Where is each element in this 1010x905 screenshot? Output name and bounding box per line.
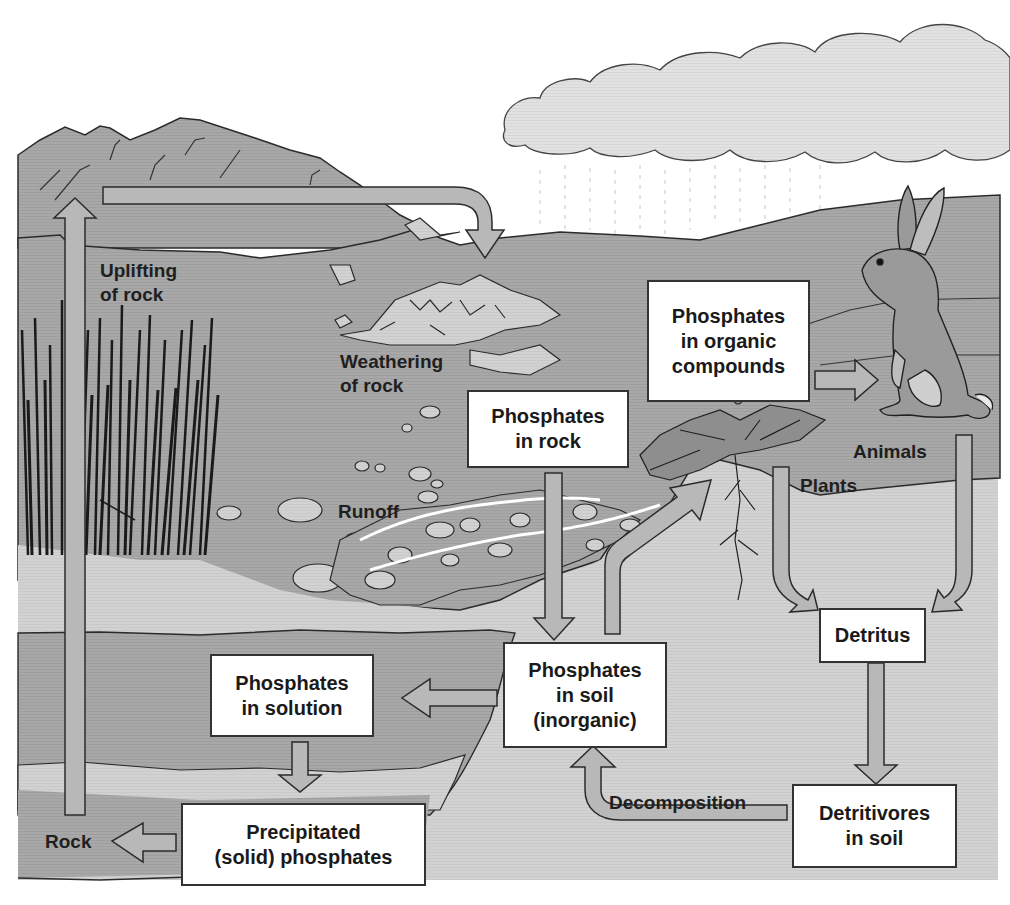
label-weathering: Weathering of rock <box>340 350 443 398</box>
box-phosphates-solution-text: Phosphates in solution <box>235 671 348 721</box>
label-animals: Animals <box>853 440 927 464</box>
label-decomposition: Decomposition <box>609 791 746 815</box>
box-detritus-text: Detritus <box>835 623 911 648</box>
label-plants: Plants <box>800 474 857 498</box>
box-detritus: Detritus <box>819 608 926 663</box>
label-rock: Rock <box>45 830 91 854</box>
box-precipitated-phosphates: Precipitated (solid) phosphates <box>181 803 426 886</box>
box-phosphates-soil-text: Phosphates in soil (inorganic) <box>528 658 641 733</box>
label-uplifting: Uplifting of rock <box>100 259 177 307</box>
box-detritivores-text: Detritivores in soil <box>819 801 930 851</box>
box-phosphates-organic: Phosphates in organic compounds <box>647 280 810 402</box>
box-phosphates-organic-text: Phosphates in organic compounds <box>672 304 785 379</box>
box-phosphates-rock-text: Phosphates in rock <box>491 404 604 454</box>
box-phosphates-rock: Phosphates in rock <box>467 390 629 468</box>
label-runoff: Runoff <box>338 500 399 524</box>
phosphorus-cycle-diagram: Phosphates in organic compounds Phosphat… <box>0 0 1010 905</box>
box-phosphates-solution: Phosphates in solution <box>210 654 374 737</box>
box-detritivores: Detritivores in soil <box>792 784 957 868</box>
box-precipitated-phosphates-text: Precipitated (solid) phosphates <box>215 820 393 870</box>
box-phosphates-soil: Phosphates in soil (inorganic) <box>503 642 667 748</box>
